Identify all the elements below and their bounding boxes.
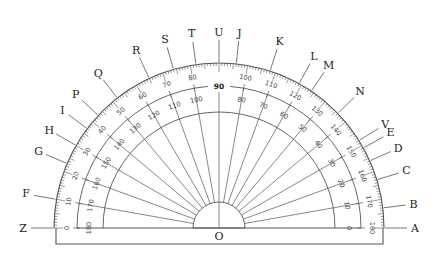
degree-tick [73, 151, 76, 152]
ray-i: I [60, 104, 86, 129]
inner-scale-number: 30 [326, 157, 337, 168]
ray-k: K [270, 35, 284, 70]
degree-tick [109, 105, 111, 107]
outer-scale-number: 110 [264, 79, 279, 91]
ray-z: Z [19, 222, 53, 235]
degree-tick [100, 113, 102, 115]
degree-tick [258, 68, 259, 71]
ray-g: G [34, 145, 66, 163]
ray-label: N [355, 85, 365, 98]
ray-h: H [44, 124, 75, 146]
degree-tick [362, 151, 365, 152]
degree-tick [325, 103, 327, 105]
degree-tick [260, 69, 261, 74]
inner-scale-number: 60 [278, 110, 289, 121]
ray-label: U [214, 26, 223, 39]
degree-tick [89, 126, 91, 128]
degree-tick [255, 67, 256, 70]
ray-label: J [236, 27, 241, 40]
ray-label: K [275, 35, 284, 48]
ray-label: D [394, 142, 403, 155]
outer-scale-number: 180 [368, 222, 376, 235]
degree-tick [72, 153, 75, 154]
ray-label: G [34, 145, 43, 158]
ray-line [299, 64, 310, 83]
degree-tick [332, 109, 334, 111]
degree-tick [120, 96, 122, 98]
degree-tick [367, 161, 370, 162]
degree-tick [86, 131, 88, 133]
radial-line [170, 95, 210, 204]
ray-line [69, 115, 87, 128]
degree-tick [61, 180, 64, 181]
ray-label: T [188, 27, 196, 40]
degree-tick [60, 183, 63, 184]
outer-scale-number: 10 [64, 197, 73, 207]
degree-tick [250, 66, 251, 69]
ray-label: L [310, 50, 318, 63]
degree-tick [79, 141, 82, 143]
outer-scale-number: 60 [137, 90, 148, 101]
ray-r: R [132, 44, 149, 78]
degree-tick [337, 115, 339, 117]
ray-line [312, 72, 324, 90]
outer-scale-number: 160 [356, 169, 368, 184]
outer-scale-number: 140 [329, 123, 343, 138]
inner-scale-number: 0 [345, 226, 353, 230]
ray-label: P [72, 88, 80, 101]
outer-scale-number: 40 [96, 124, 108, 136]
inner-scale-number: 70 [258, 101, 269, 111]
degree-tick [316, 96, 318, 98]
ray-f: F [22, 187, 55, 200]
degree-tick [302, 87, 304, 90]
degree-tick [272, 72, 273, 75]
ray-line [384, 205, 406, 208]
degree-tick [332, 111, 336, 115]
degree-tick [157, 75, 158, 78]
degree-tick [149, 78, 151, 83]
degree-tick [81, 138, 84, 140]
degree-tick [305, 88, 307, 91]
outer-scale-number: 70 [162, 80, 173, 90]
degree-tick [59, 188, 62, 189]
degree-tick [60, 185, 65, 186]
degree-tick [286, 78, 288, 83]
degree-tick [355, 138, 358, 140]
degree-tick [142, 82, 143, 85]
radial-line [245, 203, 359, 223]
degree-tick [87, 129, 89, 131]
ray-line [34, 195, 56, 199]
degree-tick [102, 111, 106, 115]
ray-b: B [384, 198, 418, 211]
ray-line [167, 47, 173, 68]
outer-scale-number: 80 [188, 73, 198, 82]
ray-line [360, 128, 379, 140]
degree-tick [377, 191, 380, 192]
degree-tick [139, 84, 140, 87]
ray-c: C [378, 164, 411, 179]
ray-label: R [132, 44, 141, 57]
degree-tick [377, 194, 380, 195]
protractor-diagram: Protractor with labeled rays 01020304050… [0, 0, 438, 257]
degree-tick [365, 156, 368, 157]
degree-tick [376, 188, 379, 189]
degree-tick [174, 69, 175, 72]
ray-line [193, 42, 196, 64]
degree-tick [117, 98, 119, 100]
degree-tick [358, 143, 361, 145]
ray-line [338, 97, 354, 112]
radial-line [110, 137, 199, 212]
degree-tick [363, 153, 366, 154]
degree-tick [280, 75, 281, 78]
ray-m: M [312, 59, 334, 90]
ray-t: T [188, 27, 196, 63]
ray-q: Q [94, 67, 117, 97]
radial-line [86, 179, 195, 219]
ray-label: A [410, 222, 420, 235]
degree-tick [266, 70, 267, 73]
degree-tick [277, 74, 278, 77]
ray-line [236, 41, 238, 63]
ray-line [46, 155, 66, 164]
center-label-o: O [214, 230, 223, 243]
degree-tick [58, 191, 61, 192]
